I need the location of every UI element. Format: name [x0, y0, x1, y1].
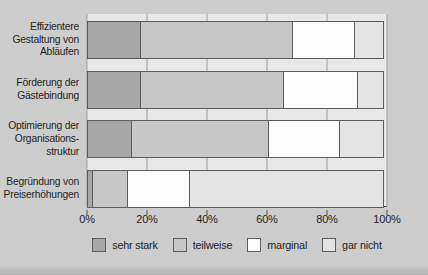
bar-row-4	[87, 170, 387, 208]
x-tick-label: 20%	[125, 213, 169, 225]
bar-segment-gar-nicht	[189, 170, 384, 208]
legend: sehr starkteilweisemarginalgar nicht	[77, 238, 397, 252]
plot-area	[87, 14, 387, 207]
legend-item-sehr-stark: sehr stark	[92, 238, 157, 252]
bar-segment-marginal	[127, 170, 190, 208]
bar-segment-teilweise	[92, 170, 128, 208]
category-axis: Effizientere Gestaltung von AbläufenFörd…	[0, 14, 83, 206]
bar-segment-teilweise	[131, 120, 269, 158]
x-tick-label: 80%	[305, 213, 349, 225]
x-tick-label: 40%	[185, 213, 229, 225]
bar-segment-gar-nicht	[357, 71, 384, 109]
bar-segment-marginal	[268, 120, 340, 158]
bar-segment-teilweise	[140, 21, 293, 59]
bar-segment-marginal	[283, 71, 358, 109]
x-tick-label: 0%	[65, 213, 109, 225]
legend-swatch-teilweise	[173, 238, 187, 252]
bar-segment-sehr-stark	[87, 71, 141, 109]
bar-segment-gar-nicht	[354, 21, 384, 59]
legend-item-gar-nicht: gar nicht	[322, 238, 382, 252]
legend-item-marginal: marginal	[247, 238, 307, 252]
category-label: Effizientere Gestaltung von Abläufen	[0, 21, 83, 59]
category-label: Förderung der Gästebindung	[0, 77, 83, 103]
legend-item-teilweise: teilweise	[173, 238, 233, 252]
legend-swatch-gar-nicht	[322, 238, 336, 252]
scan-shade	[0, 265, 428, 275]
legend-label: sehr stark	[112, 239, 157, 251]
bar-row-1	[87, 21, 387, 59]
x-tick-label: 100%	[365, 213, 409, 225]
legend-label: gar nicht	[342, 239, 382, 251]
bar-row-3	[87, 120, 387, 158]
bar-segment-teilweise	[140, 71, 284, 109]
legend-label: marginal	[267, 239, 307, 251]
legend-swatch-marginal	[247, 238, 261, 252]
stacked-bar-chart: Effizientere Gestaltung von AbläufenFörd…	[0, 0, 428, 275]
legend-swatch-sehr-stark	[92, 238, 106, 252]
bar-segment-sehr-stark	[87, 21, 141, 59]
bar-segment-marginal	[292, 21, 355, 59]
legend-label: teilweise	[193, 239, 233, 251]
bar-row-2	[87, 71, 387, 109]
category-label: Begründung von Preiserhöhungen	[0, 176, 83, 202]
category-label: Optimierung der Organisations- struktur	[0, 120, 83, 158]
bar-segment-gar-nicht	[339, 120, 384, 158]
x-tick-label: 60%	[245, 213, 289, 225]
bar-segment-sehr-stark	[87, 120, 132, 158]
